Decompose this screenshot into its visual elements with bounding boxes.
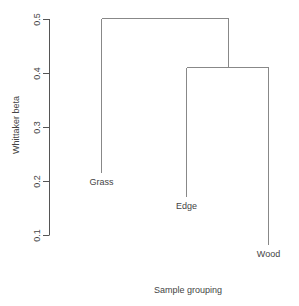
- y-axis-ticks: 0.10.20.30.40.5: [32, 13, 50, 242]
- y-tick-label: 0.4: [32, 67, 42, 80]
- y-tick-label: 0.3: [32, 121, 42, 134]
- leaf-label-wood: Wood: [257, 249, 280, 259]
- dendrogram-tree: GrassEdgeWood: [89, 19, 280, 260]
- leaf-label-grass: Grass: [89, 177, 114, 187]
- x-axis-title: Sample grouping: [154, 285, 222, 295]
- y-axis-title: Whittaker beta: [11, 96, 21, 154]
- leaf-label-edge: Edge: [176, 201, 197, 211]
- y-tick-label: 0.5: [32, 13, 42, 26]
- y-tick-label: 0.2: [32, 175, 42, 188]
- dendrogram-chart: 0.10.20.30.40.5 Whittaker beta Sample gr…: [0, 0, 299, 306]
- y-tick-label: 0.1: [32, 229, 42, 242]
